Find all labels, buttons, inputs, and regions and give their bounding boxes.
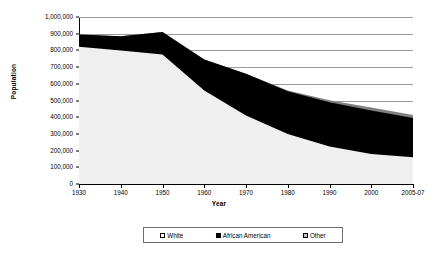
x-axis-title: Year (0, 200, 438, 207)
legend-label: White (167, 232, 183, 239)
legend-label: Other (310, 232, 326, 239)
x-axis-tick-mark (288, 185, 289, 188)
legend-item[interactable]: White (160, 232, 183, 239)
y-axis-tick-label: 200,000 (50, 147, 73, 153)
y-axis-tick-label: 500,000 (50, 97, 73, 103)
y-axis-tick-label: 700,000 (50, 64, 73, 70)
y-axis-tick-label: 600,000 (50, 81, 73, 87)
x-axis-tick-label: 1950 (155, 189, 169, 196)
x-axis-tick-label: 1960 (197, 189, 211, 196)
x-axis-tick-label: 1940 (114, 189, 128, 196)
legend-item[interactable]: African American (216, 232, 271, 239)
x-axis-tick-label: 2005-07 (401, 189, 424, 196)
legend-swatch-icon (303, 233, 308, 238)
x-axis-tick-label: 1980 (281, 189, 295, 196)
population-area-chart: Population 0100,000200,000300,000400,000… (0, 0, 438, 257)
y-axis-tick-label: 1,000,000 (45, 14, 73, 20)
y-axis-tick-label: 900,000 (50, 31, 73, 37)
x-axis-tick-label: 1990 (322, 189, 336, 196)
legend-item[interactable]: Other (303, 232, 326, 239)
x-axis-tick-mark (121, 185, 122, 188)
legend-swatch-icon (160, 233, 165, 238)
x-axis-tick-mark (371, 185, 372, 188)
y-axis-tick-labels: 0100,000200,000300,000400,000500,000600,… (0, 0, 79, 200)
y-axis-tick-label: 100,000 (50, 164, 73, 170)
x-axis-tick-mark (246, 185, 247, 188)
legend-swatch-icon (216, 233, 221, 238)
stacked-area-series (79, 17, 413, 184)
x-axis-tick-label: 2000 (364, 189, 378, 196)
y-axis-tick-label: 400,000 (50, 114, 73, 120)
x-axis-tick-label: 1930 (72, 189, 86, 196)
y-axis-tick-label: 300,000 (50, 131, 73, 137)
x-axis-tick-mark (163, 185, 164, 188)
x-axis-tick-mark (79, 185, 80, 188)
x-axis-tick-label: 1970 (239, 189, 253, 196)
x-axis-tick-mark (413, 185, 414, 188)
x-axis-tick-mark (204, 185, 205, 188)
chart-legend: WhiteAfrican AmericanOther (143, 227, 343, 243)
x-axis-tick-mark (330, 185, 331, 188)
legend-label: African American (223, 232, 271, 239)
x-axis-tick-labels: 193019401950196019701980199020002005-07 (0, 185, 438, 201)
y-axis-tick-label: 800,000 (50, 47, 73, 53)
